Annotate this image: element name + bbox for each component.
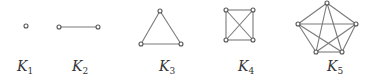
label-k4: K4 [238, 59, 254, 76]
k5-edge [327, 3, 356, 24]
k5-edge [298, 24, 316, 52]
label-k2: K2 [72, 59, 88, 76]
label-k5-letter: K [327, 58, 337, 74]
k1-vertex [24, 24, 28, 28]
k5-edge [342, 24, 356, 52]
k4-vertex [251, 38, 255, 42]
k4-vertex [224, 38, 228, 42]
label-k4-sub: 4 [248, 66, 254, 76]
label-k3-letter: K [159, 58, 169, 74]
k5-vertex [340, 50, 344, 54]
k5-vertex [296, 22, 300, 26]
k5-vertex [354, 22, 358, 26]
k2-vertex [57, 25, 61, 29]
k3-vertex [158, 9, 162, 13]
label-k4-letter: K [238, 58, 248, 74]
graphs-canvas [0, 0, 377, 81]
label-k1-sub: 1 [27, 66, 33, 76]
label-k2-letter: K [72, 58, 82, 74]
label-k3: K3 [159, 59, 175, 76]
k5-vertex [314, 50, 318, 54]
label-k1-letter: K [17, 58, 27, 74]
label-k2-sub: 2 [82, 66, 88, 76]
k2-vertex [96, 25, 100, 29]
k4-vertex [251, 8, 255, 12]
k5-vertex [325, 1, 329, 5]
k3-vertex [179, 42, 183, 46]
k3-edge [141, 11, 160, 44]
label-k3-sub: 3 [169, 66, 175, 76]
label-k5-sub: 5 [337, 66, 343, 76]
k4-vertex [224, 8, 228, 12]
k5-edge [327, 3, 342, 52]
k3-edge [160, 11, 181, 44]
label-k1: K1 [17, 59, 33, 76]
label-k5: K5 [327, 59, 343, 76]
edges-layer [59, 3, 356, 52]
k3-vertex [139, 42, 143, 46]
